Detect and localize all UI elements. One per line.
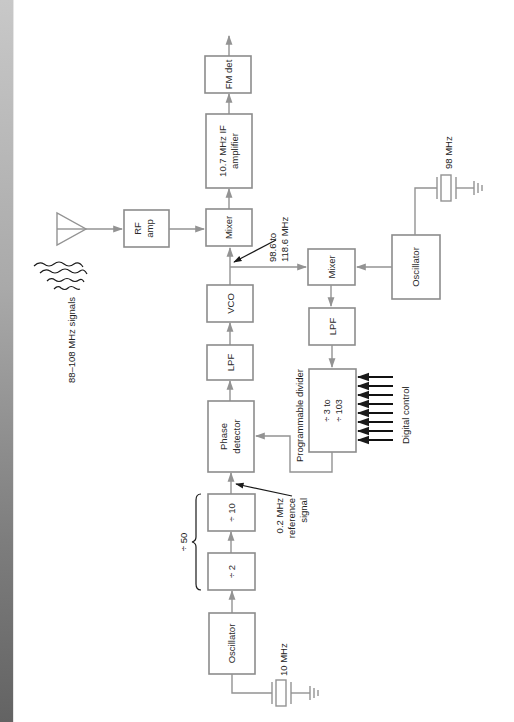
programmable-divider-block: ÷ 3 to ÷ 103 — [309, 369, 356, 452]
fm-detector-label: FM det — [223, 59, 234, 89]
mixer-lower-text: Mixer — [326, 255, 337, 278]
crystal-10mhz-icon — [272, 680, 310, 706]
phase-detector-label-2: detector — [231, 419, 242, 453]
fm-detector-block: FM det — [205, 56, 251, 93]
reference-oscillator-block: Oscillator — [209, 613, 255, 674]
crystal-10mhz-label: 10 MHz — [278, 643, 289, 676]
reference-label-1: 0.2 MHz — [274, 498, 285, 534]
divide-by-50-brace — [192, 494, 201, 590]
ground-icon — [310, 686, 318, 700]
vco-label: VCO — [225, 293, 236, 314]
digital-control-inputs — [358, 377, 393, 440]
signals-label: 88–108 MHz signals — [66, 297, 77, 383]
crystal-98mhz-label: 98 MHz — [443, 136, 454, 169]
reference-label-3: signal — [298, 498, 309, 523]
vco-range-label-1: 98.6 to — [267, 233, 278, 262]
radio-waves-icon — [34, 262, 87, 290]
divide-by-10-block: ÷ 10 — [208, 494, 255, 531]
rf-amp-label-2: amp — [144, 219, 155, 237]
programmable-divider-title: Programmable divider — [294, 369, 305, 462]
if-amplifier-block: 10.7 MHz IF amplifier — [206, 114, 252, 188]
ground-icon — [474, 181, 482, 195]
local-oscillator-label: Oscillator — [410, 247, 421, 287]
lpf-main-block: LPF — [207, 345, 253, 380]
programmable-divider-label-2: ÷ 103 — [334, 399, 344, 421]
phase-detector-label-1: Phase — [218, 423, 229, 450]
programmable-divider-label-1: ÷ 3 to — [322, 399, 332, 421]
reference-oscillator-label: Oscillator — [226, 624, 237, 664]
mixer-lower-block: Mixer — [308, 249, 355, 285]
divide-by-2-label: ÷ 2 — [226, 565, 237, 578]
if-amplifier-label-2: amplifier — [229, 133, 240, 169]
mixer-top-label: Mixer — [223, 216, 234, 239]
vco-range-label-2: 118.6 MHz — [279, 217, 290, 262]
lpf-lower-label: LPF — [327, 318, 338, 336]
lpf-main-label: LPF — [225, 354, 236, 372]
mixer-top-block: Mixer — [206, 209, 252, 246]
osc-to-crystal-wire — [232, 674, 272, 693]
rf-amp-label-1: RF — [132, 222, 143, 235]
divide-by-50-label: ÷ 50 — [178, 533, 189, 551]
lpf-lower-block: LPF — [309, 308, 355, 345]
rf-amp-block: RF amp — [124, 210, 169, 247]
divide-by-2-block: ÷ 2 — [208, 553, 255, 590]
local-oscillator-block: Oscillator — [392, 235, 440, 299]
phase-detector-block: Phase detector — [208, 401, 254, 472]
fm-receiver-pll-diagram: FM det 10.7 MHz IF amplifier Mixer RF am… — [0, 0, 514, 722]
antenna-icon — [57, 213, 86, 245]
if-amplifier-label-1: 10.7 MHz IF — [217, 125, 228, 177]
vco-block: VCO — [207, 285, 253, 322]
digital-control-label: Digital control — [400, 386, 411, 444]
reference-label-2: reference — [286, 498, 297, 538]
crystal-98mhz-icon — [437, 175, 474, 201]
local-osc-to-crystal-wire — [415, 188, 437, 235]
divide-by-10-label: ÷ 10 — [226, 503, 237, 521]
